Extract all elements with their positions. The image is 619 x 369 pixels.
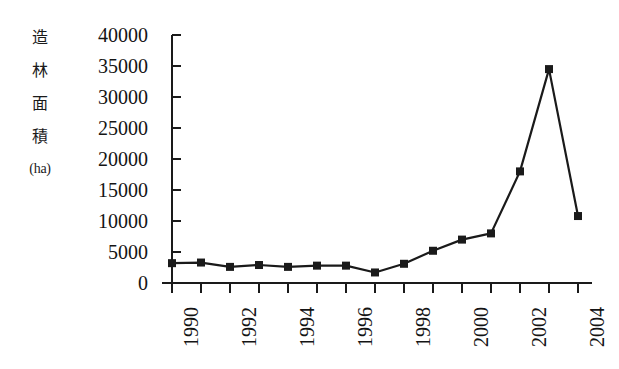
data-point-marker bbox=[255, 261, 263, 269]
series-markers bbox=[168, 65, 582, 276]
data-point-marker bbox=[226, 263, 234, 271]
axes bbox=[162, 35, 592, 293]
data-point-marker bbox=[458, 236, 466, 244]
data-point-marker bbox=[342, 262, 350, 270]
plot-area bbox=[0, 0, 619, 369]
data-point-marker bbox=[400, 260, 408, 268]
y-axis-ticks bbox=[172, 35, 181, 283]
data-point-marker bbox=[574, 212, 582, 220]
data-point-marker bbox=[313, 262, 321, 270]
data-point-marker bbox=[168, 259, 176, 267]
data-point-marker bbox=[487, 229, 495, 237]
data-point-marker bbox=[429, 247, 437, 255]
data-point-marker bbox=[371, 268, 379, 276]
data-point-marker bbox=[545, 65, 553, 73]
x-axis-ticks bbox=[172, 283, 578, 293]
data-point-marker bbox=[516, 167, 524, 175]
data-series-afforestation-area bbox=[168, 65, 582, 276]
data-point-marker bbox=[197, 259, 205, 267]
data-point-marker bbox=[284, 263, 292, 271]
chart-figure: 造 林 面 積 (ha) 400003500030000250002000015… bbox=[0, 0, 619, 369]
